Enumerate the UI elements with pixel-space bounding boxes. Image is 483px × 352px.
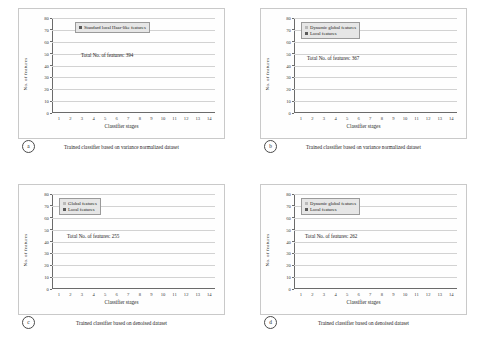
figure-sheet: No. of features 01020304050607080 123456…: [0, 0, 483, 352]
x-tick-label: 12: [422, 116, 434, 121]
x-axis-a: [52, 112, 215, 113]
y-tick-mark: [292, 77, 294, 78]
y-tick-label: 70: [286, 27, 291, 32]
y-tick-label: 30: [286, 75, 291, 80]
x-tick-label: 4: [88, 292, 100, 297]
x-tick-label: 5: [99, 116, 111, 121]
x-axis-title-d: Classifier stages: [261, 299, 466, 305]
y-tick-label: 40: [286, 63, 291, 68]
legend-swatch-icon: [79, 26, 82, 29]
bar-slot: [376, 194, 388, 288]
y-tick-label: 10: [286, 99, 291, 104]
x-axis-title-c: Classifier stages: [19, 299, 224, 305]
x-tick-label: 3: [318, 116, 330, 121]
legend-label: Standard local Haar-like features: [84, 25, 146, 31]
x-tick-label: 9: [146, 292, 158, 297]
bar-slot: [399, 194, 411, 288]
y-tick-mark: [50, 101, 52, 102]
x-axis-d: [294, 288, 457, 289]
y-tick-mark: [50, 18, 52, 19]
x-tick-label: 11: [169, 116, 181, 121]
x-tick-label: 12: [422, 292, 434, 297]
bar-slot: [376, 18, 388, 112]
y-tick-label: 50: [44, 227, 49, 232]
x-tick-label: 12: [180, 116, 192, 121]
x-tick-label: 13: [192, 292, 204, 297]
bar-slot: [446, 18, 458, 112]
legend-b: Dynamic global featuresLocal features: [301, 22, 360, 39]
x-tick-label: 3: [76, 116, 88, 121]
bar-slot: [180, 194, 192, 288]
y-tick-mark: [292, 41, 294, 42]
y-tick-mark: [292, 113, 294, 114]
y-tick-mark: [50, 253, 52, 254]
chart-panel-c: No. of features 01020304050607080 123456…: [18, 184, 225, 315]
x-tick-label: 7: [364, 292, 376, 297]
x-tick-label: 11: [411, 292, 423, 297]
y-tick-label: 10: [286, 275, 291, 280]
bar-slot: [192, 194, 204, 288]
y-tick-label: 0: [47, 111, 49, 116]
y-tick-mark: [292, 229, 294, 230]
y-tick-label: 80: [286, 16, 291, 21]
legend-item: Local features: [305, 31, 356, 37]
x-tick-label: 10: [399, 116, 411, 121]
y-tick-label: 70: [44, 203, 49, 208]
legend-item: Local features: [63, 207, 97, 213]
y-tick-mark: [292, 18, 294, 19]
y-tick-mark: [292, 241, 294, 242]
x-tick-label: 4: [330, 116, 342, 121]
x-tick-label: 1: [53, 292, 65, 297]
bar-slot: [411, 18, 423, 112]
total-features-b: Total No. of features: 367: [307, 55, 359, 61]
y-tick-mark: [50, 217, 52, 218]
y-tick-mark: [292, 194, 294, 195]
x-tick-label: 1: [295, 292, 307, 297]
x-axis-c: [52, 288, 215, 289]
x-tick-labels-c: 1234567891011121314: [53, 292, 215, 297]
x-tick-label: 3: [318, 292, 330, 297]
bar-slot: [446, 194, 458, 288]
x-tick-label: 1: [53, 116, 65, 121]
x-tick-labels-a: 1234567891011121314: [53, 116, 215, 121]
bar-slot: [134, 194, 146, 288]
total-features-d: Total No. of features: 262: [305, 233, 357, 239]
x-tick-label: 4: [88, 116, 100, 121]
x-tick-label: 5: [341, 116, 353, 121]
y-tick-label: 40: [44, 63, 49, 68]
x-tick-label: 2: [65, 292, 77, 297]
legend-a: Standard local Haar-like features: [75, 22, 150, 33]
y-tick-label: 0: [289, 111, 291, 116]
legend-label: Local features: [310, 207, 337, 213]
legend-item: Standard local Haar-like features: [79, 25, 146, 31]
chart-panel-d: No. of features 01020304050607080 123456…: [260, 184, 467, 315]
panel-label-b: b: [264, 140, 277, 153]
x-tick-labels-b: 1234567891011121314: [295, 116, 457, 121]
x-tick-label: 11: [169, 292, 181, 297]
bar-slot: [422, 18, 434, 112]
y-axis-label-d: No. of features: [265, 233, 270, 266]
bar-slot: [146, 194, 158, 288]
x-tick-labels-d: 1234567891011121314: [295, 292, 457, 297]
y-tick-mark: [292, 53, 294, 54]
x-tick-label: 6: [111, 116, 123, 121]
x-tick-label: 8: [134, 292, 146, 297]
y-tick-mark: [50, 289, 52, 290]
caption-d: Trained classifier based on denoised dat…: [260, 320, 467, 326]
x-tick-label: 14: [204, 116, 216, 121]
legend-label: Local features: [68, 207, 95, 213]
bar-slot: [53, 18, 65, 112]
bar-slot: [122, 194, 134, 288]
caption-b: Trained classifier based on variance nor…: [260, 144, 467, 150]
legend-d: Dynamic global featuresLocal features: [301, 198, 360, 215]
y-tick-label: 10: [44, 275, 49, 280]
y-tick-label: 80: [44, 16, 49, 21]
x-tick-label: 7: [122, 116, 134, 121]
y-tick-mark: [292, 289, 294, 290]
x-tick-label: 14: [446, 292, 458, 297]
x-tick-label: 13: [434, 292, 446, 297]
legend-swatch-icon: [305, 32, 308, 35]
legend-label: Local features: [310, 31, 337, 37]
y-axis-label-b: No. of features: [265, 57, 270, 90]
legend-swatch-icon: [63, 208, 66, 211]
